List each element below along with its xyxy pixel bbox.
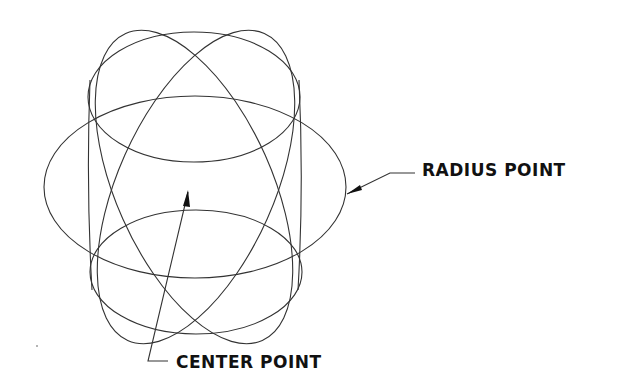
bottom-cap-ellipse xyxy=(90,210,302,334)
center-point-label: CENTER POINT xyxy=(176,352,322,372)
radius-point-label: RADIUS POINT xyxy=(422,160,566,180)
top-cap-ellipse xyxy=(88,32,300,162)
stray-dot xyxy=(36,345,38,347)
center-leader xyxy=(148,192,188,361)
meridian-ellipse-right xyxy=(56,2,335,372)
radius-arrowhead xyxy=(347,185,362,194)
meridian-ellipse-left xyxy=(54,2,333,372)
center-arrowhead xyxy=(183,190,190,207)
sphere-diagram xyxy=(0,0,642,390)
right-silhouette xyxy=(298,80,301,290)
